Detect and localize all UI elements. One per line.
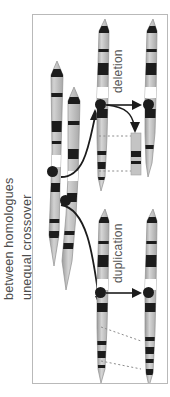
figure-canvas: between homologues unequal crossover bbox=[0, 0, 170, 397]
centromere-dot-deletion-post bbox=[143, 99, 154, 110]
centromere-dot-duplication-post bbox=[143, 287, 154, 298]
outcome-label-duplication: duplication bbox=[111, 223, 125, 283]
centromere-dot-duplication-pre bbox=[95, 287, 106, 298]
outcome-label-deletion: deletion bbox=[111, 49, 125, 93]
diagram-panel: deletion bbox=[32, 14, 168, 384]
figure-title-between-homologues: between homologues bbox=[2, 178, 16, 300]
